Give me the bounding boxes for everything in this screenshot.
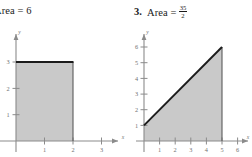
x-axis-label: x xyxy=(121,134,125,140)
trapezoid-region xyxy=(144,47,222,141)
x-ticklabel-6: 6 xyxy=(236,146,239,153)
fraction-numerator: 35 xyxy=(179,4,188,11)
y-ticklabel-6: 6 xyxy=(135,43,138,50)
y-ticklabel-5: 5 xyxy=(135,59,138,66)
y-ticklabel-4: 4 xyxy=(135,75,139,82)
y-ticklabel-1: 1 xyxy=(135,122,138,129)
y-axis-label: y xyxy=(17,29,21,35)
figure-left: Area = 6 1 2 3 1 2 3 xyxy=(0,0,126,157)
y-ticklabel-2: 2 xyxy=(6,85,9,92)
figure-left-plot: 1 2 3 1 2 3 x y xyxy=(0,28,126,157)
y-ticklabel-3: 3 xyxy=(6,58,9,65)
figure-right-plot: 1 2 3 4 5 6 1 2 3 4 5 6 x y xyxy=(134,28,252,157)
figure-left-caption-text: Area = xyxy=(0,5,24,16)
y-axis-label: y xyxy=(145,29,149,35)
x-ticklabel-3: 3 xyxy=(189,146,192,153)
figure-right-caption: 3.Area =352 xyxy=(134,4,187,19)
x-ticklabel-1: 1 xyxy=(158,146,161,153)
x-ticklabel-5: 5 xyxy=(220,146,223,153)
x-axis-label: x xyxy=(246,134,250,140)
y-ticklabel-1: 1 xyxy=(6,111,9,118)
x-ticklabel-2: 2 xyxy=(71,146,74,153)
figure-right-caption-fraction: 352 xyxy=(179,4,188,19)
y-ticklabel-2: 2 xyxy=(135,106,138,113)
figure-right: 3.Area =352 1 xyxy=(126,0,252,157)
figure-right-number: 3. xyxy=(134,6,142,17)
x-ticklabel-2: 2 xyxy=(174,146,177,153)
figure-left-caption: Area = 6 xyxy=(0,4,32,16)
fraction-denominator: 2 xyxy=(179,11,188,19)
x-ticklabel-4: 4 xyxy=(205,146,209,153)
figure-left-caption-value: 6 xyxy=(26,5,31,16)
figure-right-caption-text: Area = xyxy=(147,7,177,18)
x-axis-arrow xyxy=(112,139,118,144)
rectangle-region xyxy=(16,62,73,141)
x-ticklabel-3: 3 xyxy=(100,146,103,153)
y-ticklabel-3: 3 xyxy=(135,90,138,97)
x-ticklabel-1: 1 xyxy=(43,146,46,153)
